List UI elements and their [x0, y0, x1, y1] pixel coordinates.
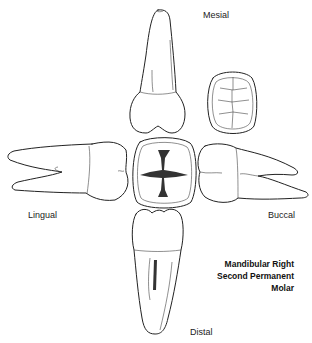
label-distal: Distal [190, 327, 213, 337]
buccal-view-tooth [198, 144, 308, 203]
distal-view-tooth [132, 209, 183, 334]
lingual-view-tooth [8, 142, 128, 200]
incisal-outline-view [208, 72, 257, 134]
label-lingual: Lingual [28, 210, 57, 220]
occlusal-view-tooth [133, 138, 196, 208]
title-line-3: Molar [217, 282, 294, 294]
label-mesial: Mesial [203, 10, 229, 20]
figure-title: Mandibular Right Second Permanent Molar [217, 258, 294, 294]
title-line-2: Second Permanent [217, 270, 294, 282]
mesial-view-tooth [130, 10, 185, 133]
title-line-1: Mandibular Right [217, 258, 294, 270]
tooth-diagram: Mesial Lingual Buccal Distal Mandibular … [0, 0, 312, 343]
label-buccal: Buccal [268, 210, 295, 220]
